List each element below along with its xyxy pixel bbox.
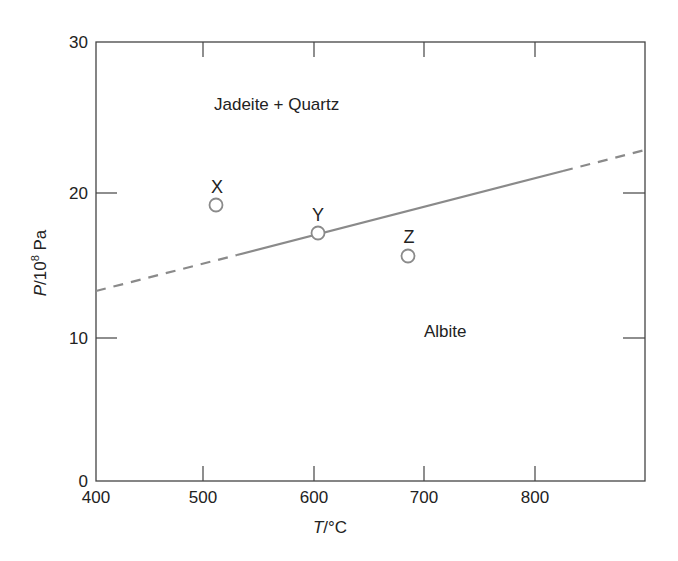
phase-diagram: 30 20 10 0 400 500 600 700 800 T/°C P/10…: [0, 0, 678, 561]
x-tick-label: 500: [189, 488, 217, 507]
y-tick-label: 10: [69, 329, 88, 348]
boundary-solid: [237, 171, 563, 255]
y-ticks: [96, 193, 645, 338]
x-axis-label: T/°C: [313, 518, 347, 537]
phase-boundary: [96, 150, 645, 291]
x-tick-labels: 400 500 600 700 800: [82, 488, 549, 507]
y-tick-label: 30: [69, 33, 88, 52]
point-x-label: X: [211, 177, 223, 197]
y-tick-labels: 30 20 10 0: [69, 33, 88, 491]
boundary-dashed-right: [563, 150, 645, 171]
y-axis-label: P/108 Pa: [29, 229, 50, 296]
point-z-label: Z: [404, 227, 415, 247]
plot-frame: [96, 42, 645, 481]
point-y-label: Y: [312, 205, 324, 225]
point-y-marker: [312, 227, 325, 240]
x-tick-label: 600: [300, 488, 328, 507]
x-tick-label: 800: [521, 488, 549, 507]
boundary-dashed-left: [96, 255, 237, 291]
point-x-marker: [210, 199, 223, 212]
y-tick-label: 20: [69, 184, 88, 203]
point-z-marker: [402, 250, 415, 263]
data-points: X Y Z: [210, 177, 415, 263]
x-tick-label: 700: [410, 488, 438, 507]
upper-region-label: Jadeite + Quartz: [214, 95, 339, 114]
lower-region-label: Albite: [424, 322, 467, 341]
x-tick-label: 400: [82, 488, 110, 507]
